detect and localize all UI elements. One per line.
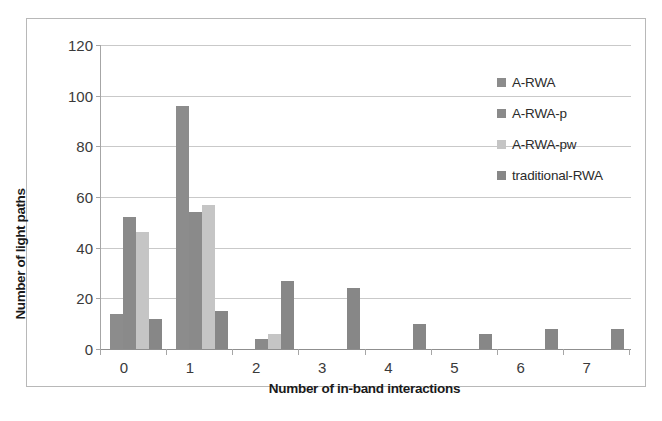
x-axis-tick-label: 4 <box>368 359 408 376</box>
y-axis-tick-labels: 020406080100120 <box>57 45 93 349</box>
bar <box>268 334 281 349</box>
chart-legend: A-RWAA-RWA-pA-RWA-pwtraditional-RWA <box>497 67 647 191</box>
y-axis-tick-label: 60 <box>57 189 93 206</box>
x-axis-tick-marks <box>100 349 629 357</box>
x-axis-tick-mark <box>431 349 432 355</box>
bar <box>281 281 294 349</box>
x-axis-tick-label: 7 <box>567 359 607 376</box>
bar <box>255 339 268 349</box>
bar <box>202 205 215 349</box>
y-axis-tick-label: 20 <box>57 290 93 307</box>
y-axis-tick-label: 100 <box>57 87 93 104</box>
legend-entry: A-RWA-pw <box>497 129 647 160</box>
x-axis-tick-label: 6 <box>501 359 541 376</box>
x-axis-tick-mark <box>166 349 167 355</box>
legend-entry: traditional-RWA <box>497 160 647 191</box>
x-axis-title: Number of in-band interactions <box>100 381 629 396</box>
legend-swatch-icon <box>497 78 506 87</box>
legend-label: A-RWA <box>512 75 555 90</box>
legend-label: A-RWA-pw <box>512 137 576 152</box>
bar <box>136 232 149 349</box>
bar <box>176 106 189 349</box>
x-axis-tick-mark <box>100 349 101 355</box>
x-axis-tick-label: 0 <box>104 359 144 376</box>
bar <box>479 334 492 349</box>
legend-entry: A-RWA <box>497 67 647 98</box>
bar <box>189 212 202 349</box>
legend-swatch-icon <box>497 109 506 118</box>
bar <box>149 319 162 349</box>
chart-frame: Number of light paths 020406080100120 01… <box>26 18 646 387</box>
x-axis-tick-label: 1 <box>170 359 210 376</box>
bar <box>545 329 558 349</box>
x-axis-tick-labels: 01234567 <box>100 359 629 381</box>
y-axis-tick-label: 120 <box>57 37 93 54</box>
x-axis-tick-mark <box>365 349 366 355</box>
y-axis-tick-label: 40 <box>57 239 93 256</box>
x-axis-tick-mark <box>298 349 299 355</box>
bar <box>215 311 228 349</box>
y-axis-tick-label: 80 <box>57 138 93 155</box>
y-axis-tick-label: 0 <box>57 341 93 358</box>
y-axis-title: Number of light paths <box>13 154 28 354</box>
legend-label: traditional-RWA <box>512 168 603 183</box>
bar <box>123 217 136 349</box>
bar <box>347 288 360 349</box>
legend-entry: A-RWA-p <box>497 98 647 129</box>
x-axis-tick-label: 3 <box>302 359 342 376</box>
bar <box>611 329 624 349</box>
x-axis-tick-mark <box>497 349 498 355</box>
bar <box>413 324 426 349</box>
bar <box>110 314 123 349</box>
legend-swatch-icon <box>497 171 506 180</box>
legend-swatch-icon <box>497 140 506 149</box>
x-axis-tick-label: 5 <box>434 359 474 376</box>
x-axis-tick-label: 2 <box>236 359 276 376</box>
legend-label: A-RWA-p <box>512 106 567 121</box>
x-axis-tick-mark <box>629 349 630 355</box>
x-axis-tick-mark <box>563 349 564 355</box>
x-axis-tick-mark <box>232 349 233 355</box>
